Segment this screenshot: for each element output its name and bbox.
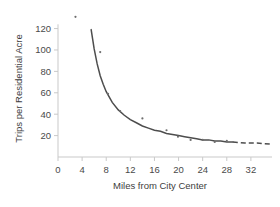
extrapolated-tail-curve: [233, 142, 272, 144]
data-point: [202, 139, 204, 141]
x-tick-label: 12: [125, 164, 136, 175]
data-point: [107, 93, 109, 95]
data-point: [99, 51, 101, 53]
x-tick-label: 0: [55, 164, 60, 175]
x-tick-label: 24: [197, 164, 208, 175]
chart-container: 20406080100120 048121620242832 Miles fro…: [0, 0, 280, 207]
x-axis-tick-labels: 048121620242832: [55, 164, 256, 175]
data-point: [119, 110, 121, 112]
x-tick-label: 16: [149, 164, 160, 175]
data-point: [226, 140, 228, 142]
y-axis-tick-labels: 20406080100120: [35, 23, 51, 141]
x-axis-title: Miles from City Center: [113, 180, 207, 191]
y-tick-label: 60: [40, 87, 51, 98]
y-tick-label: 120: [35, 23, 51, 34]
x-tick-label: 28: [221, 164, 232, 175]
x-axis-tick-marks: [58, 157, 251, 161]
chart-plot: 20406080100120 048121620242832 Miles fro…: [0, 0, 280, 207]
data-point: [74, 16, 76, 18]
scatter-data-points: [74, 16, 228, 143]
data-point: [141, 117, 143, 119]
data-point: [165, 129, 167, 131]
y-tick-label: 40: [40, 109, 51, 120]
x-tick-label: 4: [79, 164, 84, 175]
fitted-decay-curve: [91, 30, 233, 142]
x-tick-label: 20: [173, 164, 184, 175]
data-point: [214, 141, 216, 143]
y-tick-label: 80: [40, 66, 51, 77]
x-tick-label: 8: [104, 164, 109, 175]
data-point: [190, 139, 192, 141]
data-point: [177, 136, 179, 138]
y-tick-label: 20: [40, 130, 51, 141]
y-tick-label: 100: [35, 44, 51, 55]
x-tick-label: 32: [246, 164, 257, 175]
y-axis-title: Trips per Residential Acre: [13, 34, 24, 142]
y-axis-tick-marks: [54, 29, 58, 136]
